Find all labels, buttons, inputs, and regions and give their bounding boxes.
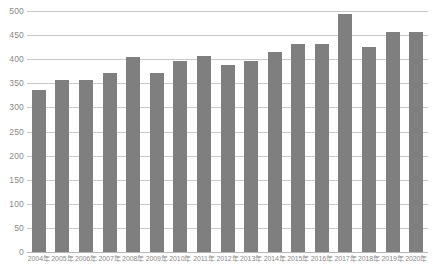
bar — [244, 61, 258, 252]
y-axis-tick-label: 350 — [0, 79, 24, 88]
x-axis-labels: 2004年2005年2006年2007年2008年2009年2010年2011年… — [27, 255, 428, 268]
y-axis-tick-label: 50 — [0, 224, 24, 233]
y-axis-tick-label: 200 — [0, 152, 24, 161]
bar — [197, 56, 211, 252]
bar — [32, 90, 46, 252]
bar — [362, 47, 376, 252]
y-axis-tick-label: 300 — [0, 103, 24, 112]
y-axis-labels: 500 450 400 350 300 250 200 150 100 50 0 — [0, 0, 24, 270]
bar — [386, 32, 400, 252]
y-axis-tick-label: 100 — [0, 200, 24, 209]
bar — [173, 61, 187, 252]
plot-area — [27, 11, 428, 252]
bar — [103, 73, 117, 252]
bar — [268, 52, 282, 253]
bar — [315, 44, 329, 252]
bar-chart: 500 450 400 350 300 250 200 150 100 50 0… — [0, 0, 435, 270]
y-axis-tick-label: 500 — [0, 7, 24, 16]
y-axis-tick-label: 400 — [0, 55, 24, 64]
bar — [150, 73, 164, 252]
y-axis-tick-label: 150 — [0, 176, 24, 185]
x-axis-tick-label: 2020年 — [399, 255, 433, 263]
bar — [409, 32, 423, 252]
y-axis-tick-label: 0 — [0, 248, 24, 257]
bar — [338, 14, 352, 252]
bar — [55, 80, 69, 252]
bar — [79, 80, 93, 252]
bar — [291, 44, 305, 252]
bars-layer — [27, 11, 428, 252]
bar — [221, 65, 235, 252]
y-axis-tick-label: 450 — [0, 31, 24, 40]
axis-baseline — [27, 252, 428, 253]
y-axis-tick-label: 250 — [0, 128, 24, 137]
bar — [126, 57, 140, 252]
